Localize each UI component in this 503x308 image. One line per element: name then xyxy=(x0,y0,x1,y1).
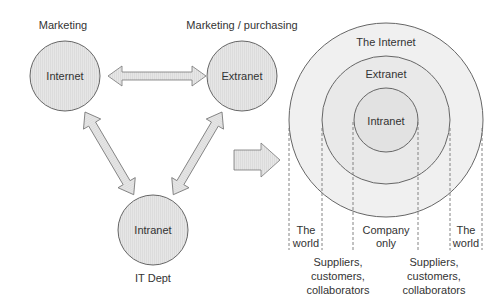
node-extranet-caption: Marketing / purchasing xyxy=(186,19,297,31)
node-intranet: Intranet IT Dept xyxy=(118,195,188,284)
svg-text:customers,: customers, xyxy=(407,270,461,282)
arrow-internet-extranet xyxy=(108,66,206,86)
ring-extranet-label: Extranet xyxy=(366,68,407,80)
node-internet-label: Internet xyxy=(46,70,83,82)
node-internet-caption: Marketing xyxy=(39,19,87,31)
zone-partners-left: Suppliers, customers, collaborators xyxy=(307,256,370,296)
svg-text:Company: Company xyxy=(362,224,410,236)
svg-text:Suppliers,: Suppliers, xyxy=(410,256,459,268)
svg-text:world: world xyxy=(452,237,479,249)
transition-arrow-icon xyxy=(234,143,280,177)
ring-the-internet-label: The Internet xyxy=(356,36,415,48)
svg-text:The: The xyxy=(297,224,316,236)
svg-text:collaborators: collaborators xyxy=(307,284,370,296)
ring-intranet-label: Intranet xyxy=(367,115,404,127)
zone-world-left: The world xyxy=(292,224,319,249)
zone-company-only: Company only xyxy=(362,224,410,249)
arrow-internet-intranet xyxy=(76,107,142,200)
zone-partners-right: Suppliers, customers, collaborators xyxy=(403,256,466,296)
svg-text:only: only xyxy=(376,237,397,249)
svg-text:customers,: customers, xyxy=(311,270,365,282)
node-extranet: Extranet Marketing / purchasing xyxy=(186,19,297,111)
svg-text:world: world xyxy=(292,237,319,249)
node-intranet-caption: IT Dept xyxy=(135,272,171,284)
node-intranet-label: Intranet xyxy=(134,224,171,236)
svg-text:collaborators: collaborators xyxy=(403,284,466,296)
svg-text:Suppliers,: Suppliers, xyxy=(314,256,363,268)
svg-text:The: The xyxy=(457,224,476,236)
arrow-extranet-intranet xyxy=(165,107,231,200)
ring-intranet: Intranet xyxy=(354,88,418,152)
node-extranet-label: Extranet xyxy=(222,70,263,82)
zone-world-right: The world xyxy=(452,224,479,249)
network-diagram: Internet Marketing Extranet Marketing / … xyxy=(0,0,503,308)
node-internet: Internet Marketing xyxy=(30,19,100,111)
